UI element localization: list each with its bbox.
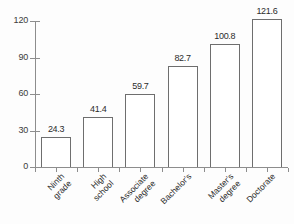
y-tick-mark [30, 58, 40, 59]
bar [125, 94, 155, 167]
x-tick-mark [162, 168, 163, 172]
x-category-label: Bachelor's [151, 172, 193, 214]
x-category-label: Master'sdegree [193, 172, 242, 221]
x-tick-mark [225, 168, 226, 172]
y-tick-label: 30 [2, 126, 28, 135]
bar-value-label: 82.7 [161, 54, 205, 63]
x-tick-mark [35, 168, 36, 172]
bar [252, 19, 282, 167]
bar [41, 137, 71, 167]
x-tick-mark [183, 168, 184, 172]
bar-value-label: 41.4 [76, 105, 120, 114]
x-tick-mark [246, 168, 247, 172]
y-tick-label: 90 [2, 53, 28, 62]
y-tick-label: 0 [2, 162, 28, 171]
bar [83, 117, 113, 167]
x-tick-mark [267, 168, 268, 172]
x-category-label-line: Bachelor's [151, 172, 193, 214]
x-category-label-line: Doctorate [236, 172, 278, 214]
x-tick-mark [77, 168, 78, 172]
bar [210, 44, 240, 167]
x-tick-mark [98, 168, 99, 172]
y-tick-mark [30, 94, 40, 95]
x-category-label: Doctorate [236, 172, 278, 214]
x-tick-mark [56, 168, 57, 172]
y-tick-label: 60 [2, 89, 28, 98]
x-category-label: Associatedegree [109, 172, 158, 221]
y-tick-mark [30, 21, 40, 22]
y-tick-label: 120 [2, 16, 28, 25]
bar-value-label: 100.8 [203, 32, 247, 41]
x-category-label: Ninthgrade [25, 172, 74, 221]
bar-value-label: 121.6 [245, 7, 289, 16]
x-category-label: Highschool [67, 172, 116, 221]
x-tick-mark [204, 168, 205, 172]
x-tick-mark [140, 168, 141, 172]
x-tick-mark [119, 168, 120, 172]
bar-chart: 0306090120 24.341.459.782.7100.8121.6 Ni… [0, 0, 294, 224]
bar-value-label: 59.7 [118, 82, 162, 91]
bar-value-label: 24.3 [34, 125, 78, 134]
x-tick-mark [288, 168, 289, 172]
bar [168, 66, 198, 167]
